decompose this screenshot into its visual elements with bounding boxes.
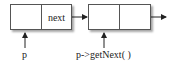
node-2-data-cell — [89, 5, 119, 29]
node-1-data-cell — [11, 5, 41, 29]
list-node-2 — [88, 4, 151, 30]
node-1-next-cell: next — [41, 5, 71, 29]
pointer-label-p: p — [22, 49, 27, 60]
node-2-next-cell — [119, 5, 150, 29]
list-node-1: next — [10, 4, 72, 30]
pointer-label-getnext: p->getNext( ) — [76, 49, 131, 60]
